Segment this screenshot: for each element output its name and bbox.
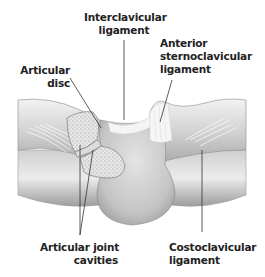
label-line: Costoclavicular — [169, 241, 256, 254]
label-articular-joint-cavities: Articular joint cavities — [40, 241, 118, 267]
label-articular-disc: Articular disc — [20, 64, 70, 90]
label-line: ligament — [84, 24, 164, 37]
label-line: Interclavicular — [84, 11, 164, 24]
label-line: ligament — [160, 63, 252, 76]
label-interclavicular-ligament: Interclavicular ligament — [84, 11, 164, 37]
label-line: sternoclavicular — [160, 50, 252, 63]
label-costoclavicular-ligament: Costoclavicular ligament — [169, 241, 256, 267]
label-line: Anterior — [160, 37, 252, 50]
label-line: Articular — [20, 64, 70, 77]
label-line: cavities — [40, 254, 118, 267]
label-line: disc — [20, 77, 70, 90]
label-line: ligament — [169, 254, 256, 267]
label-anterior-sternoclavicular-ligament: Anterior sternoclavicular ligament — [160, 37, 252, 76]
label-line: Articular joint — [40, 241, 118, 254]
